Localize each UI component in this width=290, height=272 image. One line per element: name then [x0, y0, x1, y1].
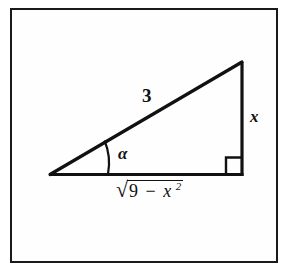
- radicand-minus-sign: −: [143, 181, 159, 201]
- radicand-nine: 9: [129, 181, 138, 201]
- right-triangle-drawing: [0, 0, 290, 272]
- radicand-group: 9 − x 2: [127, 180, 183, 201]
- hypotenuse-line: [50, 62, 242, 175]
- radicand-exponent: 2: [176, 180, 182, 192]
- figure-container: 3 x α √ 9 − x 2: [0, 0, 290, 272]
- angle-arc-icon: [105, 141, 110, 175]
- hypotenuse-label: 3: [142, 86, 152, 105]
- radicand-variable: x: [163, 181, 171, 201]
- angle-alpha-label: α: [118, 145, 127, 162]
- adjacent-side-label: √ 9 − x 2: [116, 180, 183, 201]
- right-angle-marker-icon: [226, 158, 242, 175]
- opposite-side-label: x: [250, 108, 259, 125]
- radical-expression: √ 9 − x 2: [116, 180, 183, 201]
